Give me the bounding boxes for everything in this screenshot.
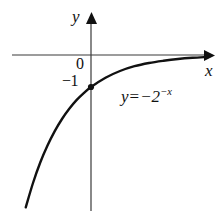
- y-intercept-point: [88, 84, 94, 90]
- function-curve: [26, 57, 208, 207]
- y-intercept-tick-label: −1: [62, 73, 78, 89]
- equation-lhs: y: [121, 87, 129, 106]
- x-axis-arrowhead: [204, 50, 215, 61]
- x-axis-label: x: [205, 62, 213, 79]
- coordinate-plot: [0, 0, 223, 216]
- curve-equation-label: y=−2−x: [121, 87, 172, 105]
- y-axis-arrowhead: [86, 12, 97, 24]
- y-axis-label: y: [72, 8, 80, 25]
- origin-tick-label: 0: [76, 56, 84, 72]
- graph-figure: y x 0 −1 y=−2−x: [0, 0, 223, 216]
- equation-operator: =: [129, 87, 141, 106]
- equation-base: −2: [140, 87, 160, 106]
- equation-exponent: −x: [160, 86, 172, 97]
